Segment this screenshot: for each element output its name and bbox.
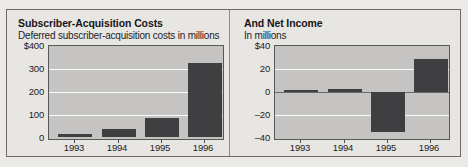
right-plot-area	[274, 45, 450, 140]
right-bar-1996	[414, 59, 448, 92]
left-xtick-1994: 1994	[95, 142, 139, 153]
right-ytick-neg20: –20	[230, 109, 270, 120]
right-bar-1993	[284, 90, 318, 92]
left-ytick-200: 200	[6, 86, 44, 97]
left-xtick-1995: 1995	[138, 142, 182, 153]
left-plot-area	[48, 45, 224, 140]
panel-subscriber-acquisition-costs: Subscriber-Acquisition Costs Deferred su…	[6, 9, 230, 157]
right-ytick-0: 0	[230, 86, 270, 97]
right-xtick-1996: 1996	[407, 142, 451, 153]
right-bar-1994	[328, 89, 362, 92]
left-ytick-400: $400	[6, 40, 44, 51]
left-bar-1996	[188, 63, 222, 137]
left-ytick-0: 0	[6, 132, 44, 143]
right-bar-1995	[371, 92, 405, 132]
right-xtick-1994: 1994	[321, 142, 365, 153]
panel-net-income: And Net Income In millions $40 20 0 –20 …	[230, 9, 461, 157]
right-xtick-1993: 1993	[278, 142, 322, 153]
left-xtick-1993: 1993	[52, 142, 96, 153]
right-ytick-20: 20	[230, 63, 270, 74]
left-chart-subtitle: Deferred subscriber-acquisition costs in…	[18, 30, 219, 41]
right-gridline-neg20	[275, 115, 449, 116]
left-bar-1995	[145, 118, 179, 137]
left-ytick-300: 300	[6, 63, 44, 74]
left-bar-1994	[102, 129, 136, 137]
right-ytick-neg40: –40	[230, 132, 270, 143]
right-chart-title: And Net Income	[244, 17, 323, 29]
right-xtick-1995: 1995	[364, 142, 408, 153]
right-zero-line	[275, 92, 449, 93]
figure-root: Subscriber-Acquisition Costs Deferred su…	[0, 0, 468, 167]
left-chart-title: Subscriber-Acquisition Costs	[18, 17, 163, 29]
left-xtick-1996: 1996	[181, 142, 225, 153]
right-ytick-40: $40	[230, 40, 270, 51]
left-ytick-100: 100	[6, 109, 44, 120]
left-bar-1993	[58, 134, 92, 137]
